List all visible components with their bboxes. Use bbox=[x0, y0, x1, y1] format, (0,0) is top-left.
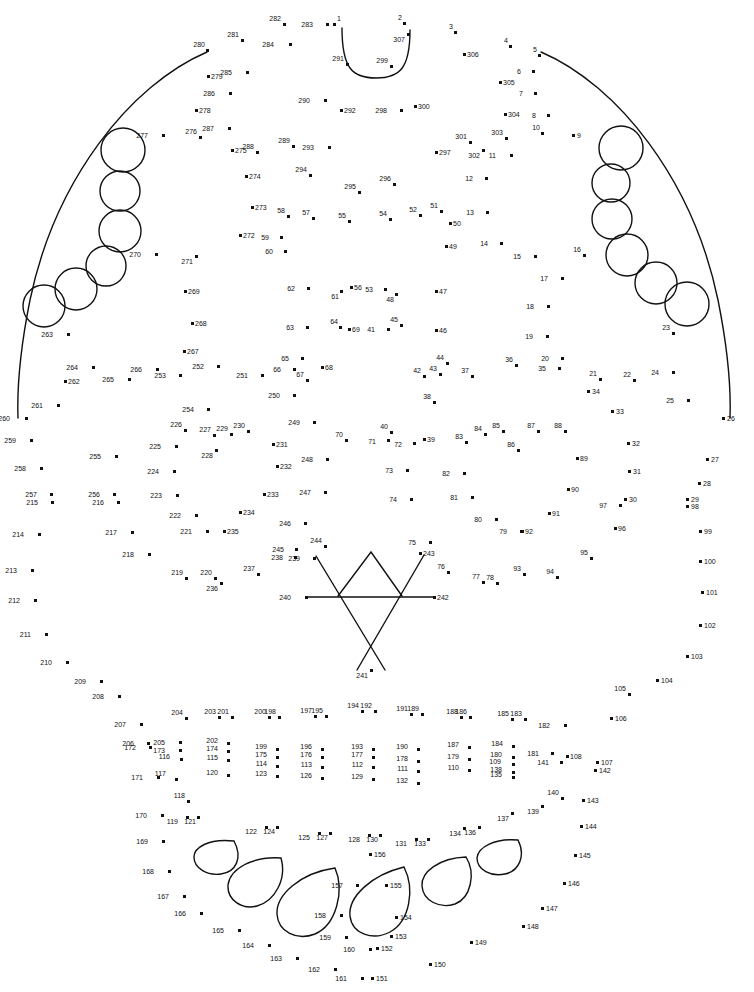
dot-mark-185 bbox=[511, 718, 514, 721]
dot-label-96: 96 bbox=[618, 525, 626, 532]
dot-mark-15 bbox=[534, 255, 537, 258]
dot-mark-278 bbox=[195, 109, 198, 112]
dot-mark-241 bbox=[370, 669, 373, 672]
dot-label-200: 200 bbox=[254, 708, 266, 715]
dot-mark-66 bbox=[293, 368, 296, 371]
dot-mark-90 bbox=[567, 488, 570, 491]
dot-label-100: 100 bbox=[704, 558, 716, 565]
dot-label-287: 287 bbox=[202, 125, 214, 132]
dot-label-142: 142 bbox=[599, 767, 611, 774]
dot-label-137: 137 bbox=[497, 815, 509, 822]
dot-mark-189 bbox=[421, 713, 424, 716]
dot-mark-221 bbox=[206, 530, 209, 533]
dot-label-270: 270 bbox=[129, 251, 141, 258]
dot-mark-183 bbox=[524, 718, 527, 721]
dot-mark-89 bbox=[576, 457, 579, 460]
dot-label-64: 64 bbox=[330, 318, 338, 325]
dot-label-71: 71 bbox=[368, 438, 376, 445]
dot-label-46: 46 bbox=[439, 327, 447, 334]
dot-mark-68 bbox=[321, 366, 324, 369]
dot-label-177: 177 bbox=[351, 751, 363, 758]
dot-label-176: 176 bbox=[300, 751, 312, 758]
numbered-dot-layer: 1234567891011121314151617181920212223242… bbox=[0, 0, 754, 992]
dot-mark-24 bbox=[672, 371, 675, 374]
dot-mark-242 bbox=[433, 596, 436, 599]
dot-mark-140 bbox=[561, 797, 564, 800]
dot-mark-283 bbox=[326, 23, 329, 26]
dot-label-146: 146 bbox=[568, 880, 580, 887]
dot-label-66: 66 bbox=[273, 366, 281, 373]
dot-mark-281 bbox=[241, 39, 244, 42]
dot-mark-226 bbox=[184, 429, 187, 432]
dot-mark-108 bbox=[566, 755, 569, 758]
dot-mark-145 bbox=[574, 854, 577, 857]
dot-label-32: 32 bbox=[632, 440, 640, 447]
dot-label-282: 282 bbox=[269, 15, 281, 22]
dot-label-1: 1 bbox=[337, 15, 341, 22]
dot-mark-187 bbox=[468, 746, 471, 749]
dot-mark-154 bbox=[395, 916, 398, 919]
dot-mark-42 bbox=[423, 375, 426, 378]
dot-mark-244 bbox=[324, 545, 327, 548]
dot-mark-289 bbox=[292, 145, 295, 148]
dot-mark-10 bbox=[541, 132, 544, 135]
dot-label-289: 289 bbox=[278, 137, 290, 144]
dot-label-193: 193 bbox=[351, 743, 363, 750]
dot-mark-216 bbox=[117, 501, 120, 504]
dot-mark-124 bbox=[276, 826, 279, 829]
dot-label-99: 99 bbox=[704, 528, 712, 535]
dot-mark-78 bbox=[496, 582, 499, 585]
dot-label-54: 54 bbox=[379, 210, 387, 217]
dot-label-60: 60 bbox=[265, 248, 273, 255]
dot-label-24: 24 bbox=[651, 369, 659, 376]
dot-mark-6 bbox=[532, 70, 535, 73]
dot-label-90: 90 bbox=[571, 486, 579, 493]
dot-mark-82 bbox=[463, 472, 466, 475]
dot-label-121: 121 bbox=[184, 818, 196, 825]
dot-mark-86 bbox=[517, 449, 520, 452]
dot-label-147: 147 bbox=[546, 905, 558, 912]
dot-mark-201 bbox=[231, 716, 234, 719]
dot-mark-52 bbox=[419, 214, 422, 217]
dot-mark-165 bbox=[238, 929, 241, 932]
dot-mark-50 bbox=[449, 222, 452, 225]
dot-mark-245 bbox=[295, 548, 298, 551]
dot-mark-267 bbox=[183, 350, 186, 353]
dot-mark-302 bbox=[482, 149, 485, 152]
dot-mark-72 bbox=[413, 442, 416, 445]
dot-label-272: 272 bbox=[243, 232, 255, 239]
dot-label-189: 189 bbox=[407, 705, 419, 712]
dot-mark-287 bbox=[228, 127, 231, 130]
dot-label-206: 206 bbox=[122, 740, 134, 747]
dot-label-304: 304 bbox=[508, 111, 520, 118]
dot-mark-294 bbox=[309, 174, 312, 177]
dot-label-269: 269 bbox=[188, 288, 200, 295]
dot-mark-18 bbox=[547, 305, 550, 308]
dot-mark-258 bbox=[40, 467, 43, 470]
dot-mark-97 bbox=[619, 504, 622, 507]
dot-label-171: 171 bbox=[131, 774, 143, 781]
dot-mark-219 bbox=[185, 577, 188, 580]
dot-mark-279 bbox=[207, 75, 210, 78]
dot-label-227: 227 bbox=[199, 426, 211, 433]
dot-mark-96 bbox=[614, 527, 617, 530]
dot-mark-195 bbox=[325, 715, 328, 718]
dot-label-225: 225 bbox=[149, 443, 161, 450]
dot-label-263: 263 bbox=[41, 331, 53, 338]
dot-label-166: 166 bbox=[174, 910, 186, 917]
dot-mark-157 bbox=[356, 884, 359, 887]
dot-label-10: 10 bbox=[532, 124, 540, 131]
dot-label-167: 167 bbox=[157, 893, 169, 900]
dot-label-107: 107 bbox=[601, 759, 613, 766]
dot-label-249: 249 bbox=[288, 419, 300, 426]
dot-mark-120 bbox=[227, 774, 230, 777]
dot-mark-285 bbox=[246, 71, 249, 74]
dot-mark-292 bbox=[340, 109, 343, 112]
dot-mark-248 bbox=[326, 458, 329, 461]
dot-label-244: 244 bbox=[310, 537, 322, 544]
dot-mark-3 bbox=[454, 31, 457, 34]
dot-label-33: 33 bbox=[616, 408, 624, 415]
dot-label-56: 56 bbox=[354, 284, 362, 291]
dot-label-6: 6 bbox=[517, 68, 521, 75]
dot-mark-114 bbox=[276, 765, 279, 768]
